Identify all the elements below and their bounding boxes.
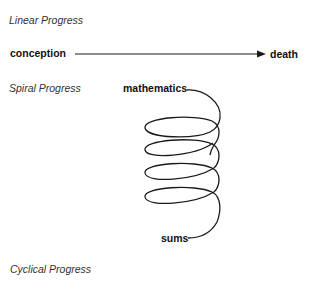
spiral-coil (145, 90, 220, 238)
diagram-graphics (0, 0, 311, 305)
linear-arrow (75, 51, 266, 58)
